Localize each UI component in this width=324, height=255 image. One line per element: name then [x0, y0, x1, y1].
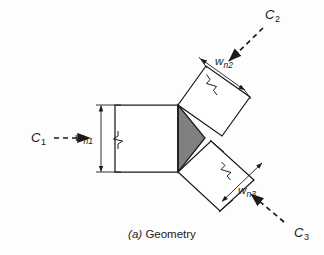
label-wn3-subscript: n3	[247, 189, 256, 199]
figure-canvas	[0, 0, 324, 255]
label-wn1: wn1	[75, 132, 93, 144]
label-wn2-symbol: w	[215, 55, 223, 67]
label-wn1-symbol: w	[75, 131, 83, 143]
label-wn3-symbol: w	[238, 184, 246, 196]
caption-text: Geometry	[145, 228, 196, 240]
label-wn2-subscript: n2	[224, 60, 233, 70]
label-c2-subscript: 2	[275, 14, 280, 24]
label-c1-symbol: C	[31, 130, 40, 145]
label-c2-symbol: C	[265, 7, 274, 22]
label-c1: C1	[31, 131, 45, 144]
label-c1-subscript: 1	[41, 137, 46, 147]
label-c2: C2	[265, 8, 279, 21]
figure-caption: (a) Geometry	[0, 228, 324, 240]
label-wn2: wn2	[215, 56, 233, 68]
label-wn1-subscript: n1	[84, 136, 93, 146]
branch-1-channel	[115, 105, 178, 172]
label-wn3: wn3	[238, 185, 256, 197]
caption-prefix: (a)	[128, 228, 142, 240]
c2-arrow	[229, 28, 263, 61]
channel-bodies	[115, 66, 254, 211]
geometry-figure: C1 C2 C3 wn1 wn2 wn3 (a) Geometry	[0, 0, 324, 255]
